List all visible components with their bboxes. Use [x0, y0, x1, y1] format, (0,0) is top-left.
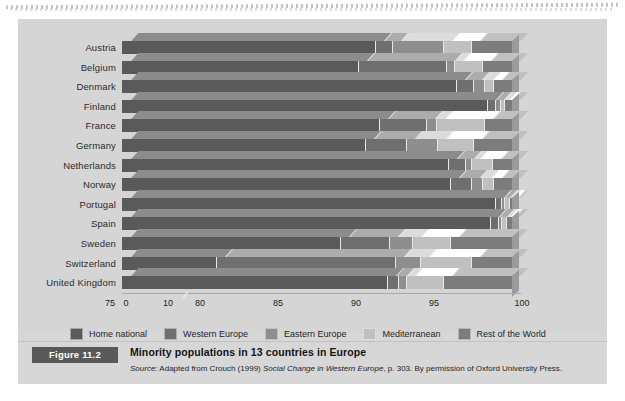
- bar-segment-top: [493, 111, 528, 119]
- legend-item[interactable]: Home national: [70, 328, 147, 340]
- bar-top-face: [131, 92, 528, 100]
- bar-segment-top: [482, 131, 528, 139]
- legend-label: Western Europe: [183, 329, 248, 339]
- stacked-bar: [122, 268, 512, 290]
- bar-segment-top: [131, 33, 391, 41]
- chart-panel: AustriaBelgiumDenmarkFinlandFranceGerman…: [18, 19, 607, 333]
- bar-front-face: [122, 276, 512, 289]
- figure-number-tag: Figure 11.2: [32, 347, 118, 363]
- figure-block: AustriaBelgiumDenmarkFinlandFranceGerman…: [18, 19, 607, 384]
- bar-top-face: [131, 131, 528, 139]
- x-axis-tick-label: 85: [273, 298, 283, 308]
- legend-label: Home national: [89, 329, 147, 339]
- bar-segment-top: [491, 53, 528, 61]
- bar-segment[interactable]: [398, 276, 406, 289]
- legend-label: Rest of the World: [477, 329, 546, 339]
- bar-segment[interactable]: [387, 276, 398, 289]
- bar-top-face: [131, 268, 528, 276]
- bar-segment-top: [131, 111, 396, 119]
- bar-top-face: [131, 33, 528, 41]
- legend-item[interactable]: Rest of the World: [458, 328, 546, 340]
- bar-segment-top: [225, 249, 412, 257]
- chart-legend: Home nationalWestern EuropeEastern Europ…: [70, 326, 590, 342]
- bar-top-face: [131, 53, 528, 61]
- bar-segment-top: [131, 92, 503, 100]
- bar-row: United Kingdom: [18, 268, 607, 290]
- source-italic-title: Social Change in Western Europe: [263, 364, 383, 373]
- bar-segment-top: [131, 249, 232, 257]
- figure-caption: Figure 11.2 Minority populations in 13 c…: [18, 341, 607, 384]
- legend-swatch-icon: [458, 328, 471, 340]
- scan-dot-row-2: [10, 8, 614, 11]
- legend-item[interactable]: Eastern Europe: [265, 328, 347, 340]
- bar-segment-top: [480, 249, 528, 257]
- x-axis-tick-label: 90: [351, 298, 361, 308]
- x-axis-line: [122, 293, 521, 294]
- stacked-bar-plot: AustriaBelgiumDenmarkFinlandFranceGerman…: [18, 19, 607, 333]
- bar-segment-top: [131, 151, 464, 159]
- bar-segment-top: [401, 33, 460, 41]
- x-axis-tick-label: 0: [123, 298, 128, 308]
- x-axis-tick-label: 100: [514, 298, 529, 308]
- category-label: United Kingdom: [46, 276, 116, 290]
- bar-segment-top: [349, 229, 405, 237]
- x-axis-tick-label: 75: [105, 298, 115, 308]
- bar-segment-top: [367, 53, 463, 61]
- legend-item[interactable]: Mediterranean: [363, 328, 440, 340]
- bar-segment-top: [480, 33, 528, 41]
- legend-label: Mediterranean: [382, 329, 440, 339]
- bar-top-face: [131, 151, 528, 159]
- figure-source: Source: Adapted from Crouch (1999) Socia…: [130, 364, 562, 373]
- legend-swatch-icon: [70, 328, 83, 340]
- bar-segment-top: [131, 229, 357, 237]
- figure-title: Minority populations in 13 countries in …: [130, 346, 366, 358]
- x-axis-tick-label: 10: [163, 298, 173, 308]
- axis-break-icon: ∕∕: [184, 289, 186, 301]
- bar-segment-top: [131, 190, 511, 198]
- bar-top-face: [131, 209, 528, 217]
- bar-segment[interactable]: [406, 276, 443, 289]
- bar-top-face: [131, 72, 528, 80]
- bar-segment-top: [131, 72, 472, 80]
- bar-segment-top: [429, 249, 488, 257]
- bar-segment[interactable]: [443, 276, 512, 289]
- source-text-1: Adapted from Crouch (1999): [158, 364, 263, 373]
- legend-swatch-icon: [164, 328, 177, 340]
- bar-top-face: [131, 229, 528, 237]
- legend-swatch-icon: [363, 328, 376, 340]
- source-label: Source:: [130, 364, 158, 373]
- bar-top-face: [131, 170, 528, 178]
- bar-top-face: [131, 111, 528, 119]
- legend-swatch-icon: [265, 328, 278, 340]
- bar-top-face: [131, 190, 528, 198]
- bar-segment[interactable]: [122, 276, 387, 289]
- bar-top-face: [131, 249, 528, 257]
- legend-label: Eastern Europe: [284, 329, 347, 339]
- bar-segment-top: [131, 170, 466, 178]
- x-axis-tick-label: 95: [429, 298, 439, 308]
- legend-item[interactable]: Western Europe: [164, 328, 248, 340]
- bar-segment-top: [131, 53, 374, 61]
- bar-segment-top: [131, 209, 506, 217]
- caption-divider: [18, 341, 607, 342]
- page-scan-edge: [0, 0, 625, 14]
- source-text-2: , p. 303. By permission of Oxford Univer…: [383, 364, 562, 373]
- x-axis-tick-label: 80: [195, 298, 205, 308]
- bar-segment-top: [131, 131, 382, 139]
- bar-segment-top: [131, 268, 403, 276]
